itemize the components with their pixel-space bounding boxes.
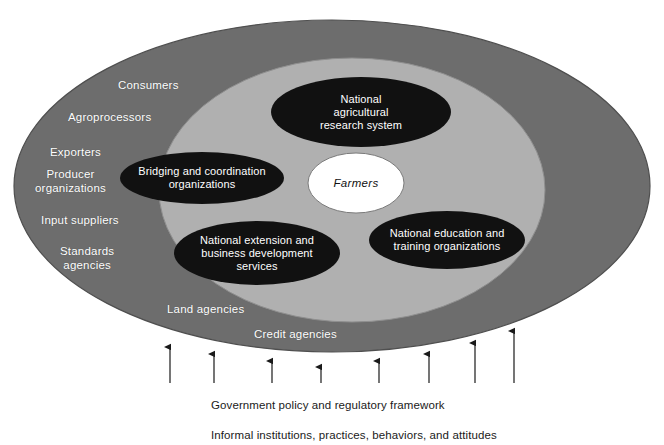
ring-label-3: Producer organizations — [35, 168, 106, 195]
ring-label-5: Standards agencies — [60, 245, 114, 272]
caption-line-2: Informal institutions, practices, behavi… — [211, 428, 497, 443]
node-label-national-agricultural-research-system[interactable]: National agricultural research system — [271, 77, 451, 147]
node-label-national-education-and-training-organizations[interactable]: National education and training organiza… — [369, 211, 525, 269]
ring-label-1: Agroprocessors — [68, 111, 151, 125]
ring-label-4: Input suppliers — [41, 214, 119, 228]
node-label-bridging-and-coordination-organizations[interactable]: Bridging and coordination organizations — [120, 152, 284, 204]
node-label-farmers[interactable]: Farmers — [308, 153, 404, 213]
ring-label-6: Land agencies — [167, 303, 244, 317]
caption-line-1: Government policy and regulatory framewo… — [211, 398, 497, 413]
ring-label-7: Credit agencies — [254, 328, 337, 342]
caption-block: Government policy and regulatory framewo… — [211, 383, 497, 445]
node-label-national-extension-and-business-development-services[interactable]: National extension and business developm… — [174, 221, 340, 285]
ring-label-0: Consumers — [118, 79, 179, 93]
ring-label-2: Exporters — [50, 146, 101, 160]
